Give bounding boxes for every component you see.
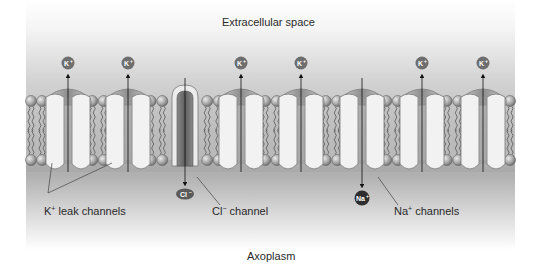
membrane-diagram: K+K+Cl−K+K+Na+K+K+ Extracellular space A… [0, 0, 534, 280]
svg-text:K: K [479, 60, 484, 67]
svg-text:K: K [64, 60, 69, 67]
cl-label-base: Cl [212, 205, 222, 217]
svg-text:+: + [243, 58, 246, 64]
svg-text:Cl: Cl [180, 191, 187, 198]
ion-badge: K+ [62, 57, 75, 70]
extracellular-space-label: Extracellular space [222, 17, 315, 28]
svg-text:K: K [124, 60, 129, 67]
svg-text:+: + [485, 58, 488, 64]
ion-badge: Cl− [176, 189, 194, 200]
svg-text:+: + [70, 58, 73, 64]
svg-text:K: K [297, 60, 302, 67]
na-label-base: Na [394, 205, 408, 217]
svg-text:+: + [130, 58, 133, 64]
svg-text:+: + [424, 58, 427, 64]
svg-text:K: K [237, 60, 242, 67]
svg-text:Na: Na [356, 195, 365, 202]
svg-text:+: + [366, 193, 369, 199]
ion-badge: Na+ [355, 191, 370, 206]
ion-badge: K+ [295, 57, 308, 70]
ion-badge: K+ [477, 57, 490, 70]
membrane-illustration: K+K+Cl−K+K+Na+K+K+ [0, 0, 534, 280]
na-channels-label: Na+ channels [394, 205, 459, 217]
ion-badge: K+ [416, 57, 429, 70]
ion-badge: K+ [122, 57, 135, 70]
ion-badge: K+ [235, 57, 248, 70]
svg-text:−: − [189, 189, 192, 195]
cl-channel-label: Cl− channel [212, 205, 268, 217]
axoplasm-label: Axoplasm [247, 251, 295, 262]
k-leak-label-rest: leak channels [55, 205, 125, 217]
k-leak-channels-label: K+ leak channels [44, 205, 126, 217]
svg-text:+: + [303, 58, 306, 64]
na-label-rest: channels [412, 205, 459, 217]
svg-text:K: K [418, 60, 423, 67]
cl-label-rest: channel [226, 205, 268, 217]
